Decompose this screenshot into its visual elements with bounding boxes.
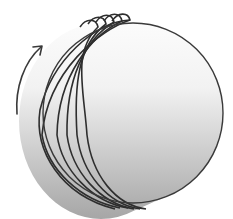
sphere-shading bbox=[0, 0, 233, 219]
sphere-rotation-diagram bbox=[0, 0, 233, 219]
diagram-canvas: Rotating sphere with successive offset p… bbox=[0, 0, 233, 219]
